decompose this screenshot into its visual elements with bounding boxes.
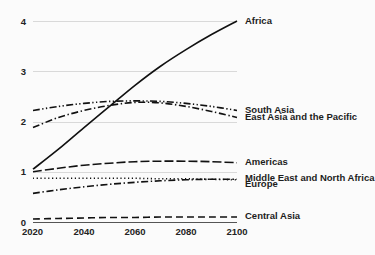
series-line-americas [33,161,237,172]
series-line-central-asia [33,217,237,219]
chart-canvas: 01234 20202040206020802100 AfricaSouth A… [0,0,375,255]
series-line-europe [33,179,237,193]
legend-label-americas: Americas [245,156,288,167]
x-tick-label-2020: 2020 [22,226,43,237]
x-tick-label-2080: 2080 [175,226,196,237]
x-tick-label-2060: 2060 [124,226,145,237]
legend-label-central-asia: Central Asia [245,210,301,221]
series-lines [33,21,237,219]
gridlines [33,22,237,173]
legend-label-east-asia-and-the-pacific: East Asia and the Pacific [245,111,357,122]
legend-label-africa: Africa [245,15,273,26]
x-axis-tick-labels: 20202040206020802100 [22,226,248,237]
x-tick-label-2100: 2100 [226,226,247,237]
legend: AfricaSouth AsiaEast Asia and the Pacifi… [245,15,375,222]
legend-label-europe: Europe [245,178,278,189]
x-tick-label-2040: 2040 [73,226,94,237]
series-line-africa [33,21,237,169]
y-axis-tick-labels: 01234 [21,16,27,228]
line-chart: 01234 20202040206020802100 AfricaSouth A… [0,0,375,255]
y-tick-label-3: 3 [21,66,26,77]
y-tick-label-4: 4 [21,16,27,27]
y-tick-label-1: 1 [21,166,27,177]
y-tick-label-2: 2 [21,116,26,127]
